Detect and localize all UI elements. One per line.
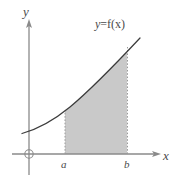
tick-label-a: a [61,159,67,170]
function-equation-expression: f(x) [107,17,125,31]
tick-label-b: b [124,159,130,170]
plot-canvas [0,0,175,179]
shaded-area-region [22,38,140,154]
integral-area-figure: y x a b y=f(x) [0,0,175,179]
x-axis-label: x [163,149,169,162]
function-equation-label: y=f(x) [95,18,125,30]
y-axis-label: y [23,5,29,18]
